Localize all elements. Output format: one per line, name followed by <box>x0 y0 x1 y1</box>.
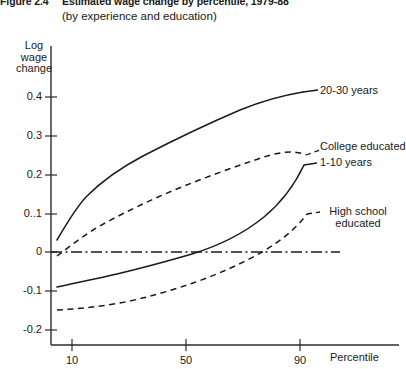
x-axis-title: Percentile <box>330 351 379 363</box>
series-label-high-school-line1: High school <box>320 205 396 217</box>
series-label-high-school-line2: educated <box>320 217 396 229</box>
y-axis-title: Log wage change <box>8 40 60 75</box>
series-label-college-educated: College educated <box>320 140 406 152</box>
series-line-college-educated <box>57 152 306 256</box>
series-line-20-30-years <box>57 92 303 240</box>
leader-line-1-10-years <box>304 163 317 165</box>
x-tick-label-10: 10 <box>52 354 92 366</box>
series-label-1-10-years: 1-10 years <box>320 156 372 168</box>
y-tick-label-0: 0 <box>0 245 42 257</box>
y-axis-title-line3: change <box>8 63 60 75</box>
y-tick-label-0.1: 0..1 <box>0 207 42 219</box>
y-tick-label-neg0.2: -0.2 <box>0 323 42 335</box>
series-line-1-10-years <box>57 165 304 287</box>
y-axis-title-line1: Log <box>8 40 60 52</box>
y-tick-label-0.3: 0.3 <box>0 129 42 141</box>
y-tick-label-neg0.1: -0.1 <box>0 284 42 296</box>
series-label-20-30-years: 20-30 years <box>320 84 378 96</box>
series-label-high-school-educated: High school educated <box>320 205 396 229</box>
leader-line-high-school-educated <box>307 212 320 214</box>
y-tick-label-0.4: 0.4 <box>0 90 42 102</box>
leader-line-20-30-years <box>303 90 318 92</box>
x-tick-label-50: 50 <box>166 354 206 366</box>
leader-line-college-educated <box>306 150 320 155</box>
x-tick-label-90: 90 <box>280 354 320 366</box>
y-tick-label-0.2: 0.2 <box>0 168 42 180</box>
